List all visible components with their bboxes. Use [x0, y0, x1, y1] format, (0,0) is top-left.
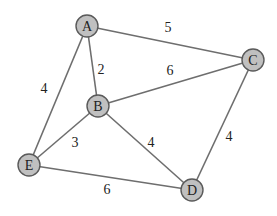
node-label: D: [187, 183, 197, 198]
node-a: A: [76, 15, 98, 37]
edge-weight-a-b: 2: [98, 62, 105, 77]
node-b: B: [87, 95, 109, 117]
edge-weight-c-d: 4: [226, 129, 233, 144]
node-label: C: [248, 53, 257, 68]
node-label: A: [82, 19, 93, 34]
node-e: E: [18, 154, 40, 176]
edge-weight-b-c: 6: [167, 63, 174, 78]
edges-group: [29, 26, 253, 190]
edge-weight-a-c: 5: [165, 20, 172, 35]
edge-b-c: [98, 60, 253, 106]
edge-weights-group: 52643446: [41, 20, 233, 197]
node-label: E: [25, 158, 34, 173]
edge-a-b: [87, 26, 98, 106]
edge-c-d: [192, 60, 253, 190]
nodes-group: ABCDE: [18, 15, 264, 201]
graph-diagram: 52643446 ABCDE: [0, 0, 277, 216]
edge-b-e: [29, 106, 98, 165]
edge-weight-b-d: 4: [148, 135, 155, 150]
edge-weight-a-e: 4: [41, 81, 48, 96]
node-d: D: [181, 179, 203, 201]
edge-weight-e-d: 6: [104, 182, 111, 197]
node-c: C: [242, 49, 264, 71]
node-label: B: [93, 99, 102, 114]
edge-weight-b-e: 3: [72, 135, 79, 150]
